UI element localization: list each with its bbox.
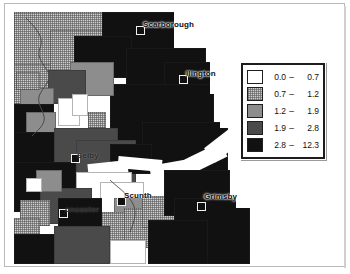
legend-low-value: 2.8 — [269, 140, 286, 150]
legend-swatch — [247, 70, 263, 84]
place-label: llington — [186, 69, 216, 78]
place-label: Scunth — [124, 191, 152, 200]
map-canvas[interactable]: ScarboroughllingtonSelbyScunthGrimsbyonc… — [14, 12, 270, 264]
legend-swatch — [247, 138, 263, 152]
legend-high-value: 2.8 — [297, 123, 319, 133]
legend-label: 1.2–1.9 — [269, 106, 319, 116]
legend-high-value: 12.3 — [297, 140, 319, 150]
legend-swatch — [247, 87, 263, 101]
legend-row[interactable]: 0.0–0.7 — [247, 68, 319, 85]
legend-row[interactable]: 2.8–12.3 — [247, 136, 319, 153]
legend-swatch — [247, 104, 263, 118]
legend-label: 1.9–2.8 — [269, 123, 319, 133]
place-marker[interactable] — [197, 202, 206, 211]
legend-row[interactable]: 1.9–2.8 — [247, 119, 319, 136]
map-legend[interactable]: 0.0–0.70.7–1.21.2–1.91.9–2.82.8–12.3 — [241, 63, 325, 159]
legend-label: 2.8–12.3 — [269, 140, 319, 150]
legend-high-value: 1.9 — [297, 106, 319, 116]
region-area[interactable] — [110, 240, 146, 264]
place-label: Selby — [77, 151, 99, 160]
figure-container: ScarboroughllingtonSelbyScunthGrimsbyonc… — [0, 0, 350, 274]
place-label: Scarborough — [143, 20, 194, 29]
figure-frame: ScarboroughllingtonSelbyScunthGrimsbyonc… — [4, 3, 345, 267]
place-label: oncaster — [65, 205, 99, 214]
legend-label: 0.0–0.7 — [269, 72, 319, 82]
legend-label: 0.7–1.2 — [269, 89, 319, 99]
place-label: Grimsby — [204, 192, 237, 201]
legend-high-value: 0.7 — [297, 72, 319, 82]
region-area[interactable] — [148, 220, 208, 264]
legend-high-value: 1.2 — [297, 89, 319, 99]
legend-row[interactable]: 0.7–1.2 — [247, 85, 319, 102]
legend-low-value: 1.2 — [269, 106, 286, 116]
region-area[interactable] — [88, 112, 106, 128]
legend-dash: – — [286, 89, 297, 99]
legend-dash: – — [286, 123, 297, 133]
legend-dash: – — [286, 72, 297, 82]
region-area[interactable] — [54, 226, 110, 264]
sea-area — [250, 202, 270, 264]
legend-low-value: 0.7 — [269, 89, 286, 99]
legend-swatch — [247, 121, 263, 135]
legend-dash: – — [286, 140, 297, 150]
region-area[interactable] — [26, 178, 42, 192]
region-area[interactable] — [16, 72, 40, 90]
legend-dash: – — [286, 106, 297, 116]
legend-low-value: 1.9 — [269, 123, 286, 133]
region-area[interactable] — [72, 94, 88, 116]
legend-low-value: 0.0 — [269, 72, 286, 82]
legend-row[interactable]: 1.2–1.9 — [247, 102, 319, 119]
